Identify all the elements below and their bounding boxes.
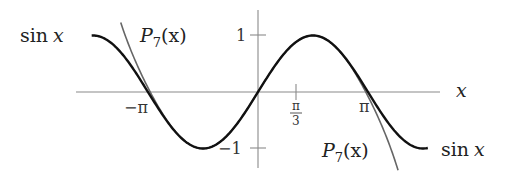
sin-label-right: sinx: [441, 138, 485, 160]
x-tick-label-pi-over-3-num: π: [292, 99, 300, 113]
p7-label-right: P7(x): [321, 139, 369, 165]
taylor-diagram: sinx P7(x) 1 −1 x −π π π 3 P7(x) sinx: [0, 0, 511, 177]
diagram-canvas: sinx P7(x) 1 −1 x −π π π 3 P7(x) sinx: [0, 0, 511, 177]
x-tick-label-neg-pi: −π: [124, 98, 148, 117]
y-tick-label-neg-1: −1: [218, 139, 242, 158]
x-tick-label-pi: π: [359, 97, 370, 116]
x-tick-label-pi-over-3-den: 3: [292, 114, 300, 128]
y-tick-label-1: 1: [236, 26, 246, 45]
sin-label-left: sinx: [20, 24, 64, 46]
p7-label-left: P7(x): [139, 24, 187, 50]
x-axis-label: x: [456, 79, 467, 101]
